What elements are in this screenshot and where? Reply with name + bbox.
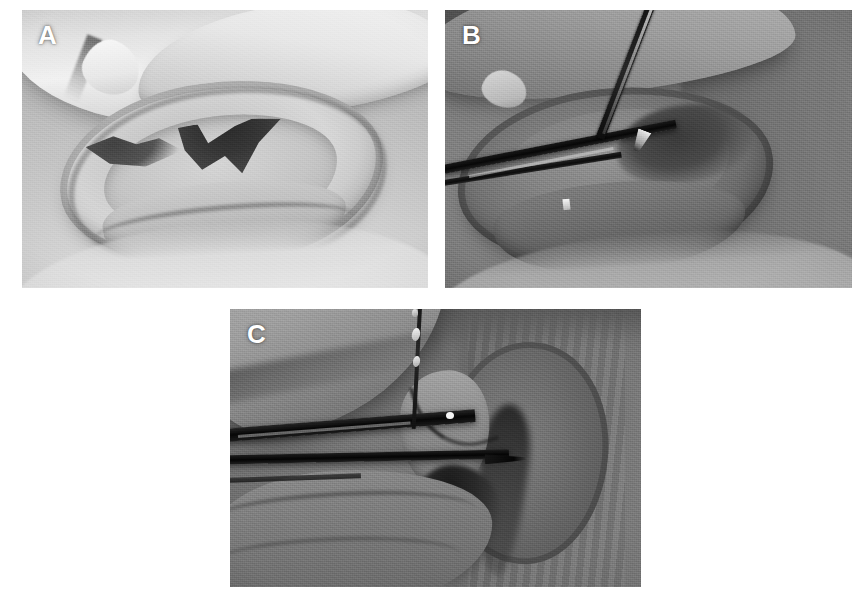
panel-c-film-grain: [230, 309, 641, 587]
panel-a: A: [22, 10, 428, 288]
panel-label-a: A: [38, 22, 57, 48]
panel-b-photo: [445, 10, 852, 288]
panel-label-b: B: [462, 22, 481, 48]
panel-c: C: [230, 309, 641, 587]
panel-c-photo: [230, 309, 641, 587]
panel-b-film-grain: [445, 10, 852, 288]
panel-label-c: C: [247, 321, 266, 347]
panel-b: B: [445, 10, 852, 288]
panel-a-film-grain: [22, 10, 428, 288]
figure-container: A B: [0, 0, 868, 601]
panel-a-photo: [22, 10, 428, 288]
